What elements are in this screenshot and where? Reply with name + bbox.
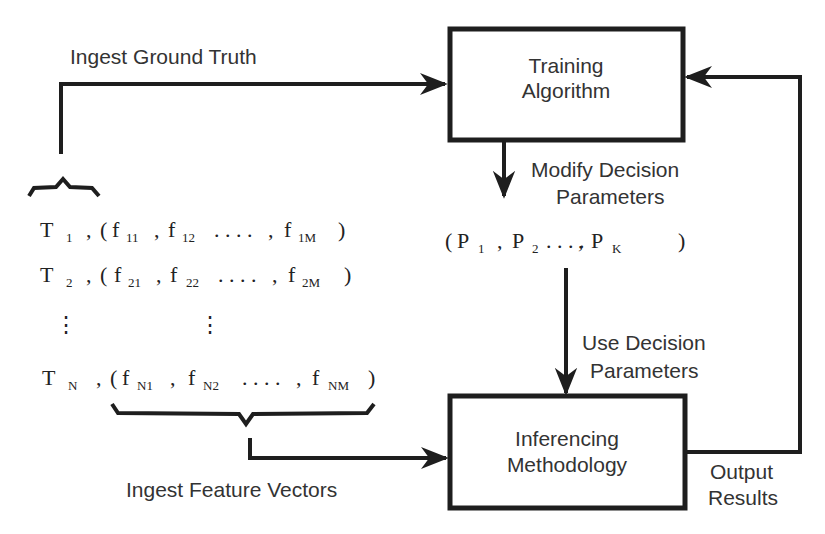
row-T: T bbox=[40, 262, 54, 287]
row-fM: f bbox=[288, 262, 296, 287]
row-ellipsis: . . . . bbox=[242, 365, 281, 390]
row-T: T bbox=[42, 365, 56, 390]
row-f2: f bbox=[168, 217, 176, 242]
row-comma: , bbox=[156, 262, 162, 287]
feature-vectors-arrow bbox=[250, 438, 446, 458]
output-label-line1: Output bbox=[710, 460, 773, 483]
row-comma: , bbox=[96, 365, 102, 390]
inferencing-methodology-node: Inferencing Methodology bbox=[450, 396, 685, 508]
params-open: ( bbox=[445, 228, 452, 253]
row-fM-sub: 1M bbox=[298, 230, 317, 245]
row-open: ( bbox=[110, 365, 117, 390]
param-pk-sub: K bbox=[612, 241, 622, 256]
row-T-sub: 1 bbox=[66, 230, 73, 245]
output-feedback-arrow bbox=[687, 77, 800, 452]
output-label-line2: Results bbox=[708, 486, 778, 509]
inferencing-label-line2: Methodology bbox=[507, 453, 628, 476]
use-label-line1: Use Decision bbox=[582, 331, 706, 354]
row-f1-sub: N1 bbox=[137, 378, 153, 393]
training-algorithm-node: Training Algorithm bbox=[450, 29, 683, 140]
row-open: ( bbox=[100, 262, 107, 287]
modify-parameters-edge: Modify Decision Parameters bbox=[504, 142, 679, 208]
row-fM-sub: NM bbox=[328, 378, 349, 393]
row-ellipsis: . . . . bbox=[218, 262, 257, 287]
row-T: T bbox=[40, 217, 54, 242]
training-label-line2: Algorithm bbox=[522, 79, 611, 102]
row-f2-sub: 12 bbox=[182, 230, 195, 245]
ml-pipeline-diagram: Ingest Ground Truth Training Algorithm M… bbox=[0, 0, 825, 534]
row-fM: f bbox=[284, 217, 292, 242]
data-row: T 1 , ( f 11 , f 12 . . . . , f 1M ) bbox=[40, 217, 345, 245]
data-row: T N , ( f N1 , f N2 . . . . , f NM ) bbox=[42, 365, 375, 393]
row-comma: , bbox=[170, 365, 176, 390]
param-p2-sub: 2 bbox=[532, 241, 539, 256]
training-data-rows: T 1 , ( f 11 , f 12 . . . . , f 1M ) T 2… bbox=[40, 217, 375, 393]
param-p1-sub: 1 bbox=[478, 241, 485, 256]
row-T-sub: N bbox=[68, 378, 78, 393]
vertical-dots-T: ⋮ bbox=[55, 312, 77, 337]
row-comma: , bbox=[154, 217, 160, 242]
params-close: ) bbox=[678, 228, 685, 253]
row-comma: , bbox=[272, 262, 278, 287]
param-p1: P bbox=[457, 228, 469, 253]
row-f1: f bbox=[114, 262, 122, 287]
feature-vectors-brace bbox=[112, 404, 374, 424]
vertical-dots-f: ⋮ bbox=[199, 312, 221, 337]
row-T-sub: 2 bbox=[66, 275, 73, 290]
row-f1: f bbox=[112, 217, 120, 242]
params-comma-2: , bbox=[578, 228, 584, 253]
row-close: ) bbox=[344, 262, 351, 287]
ground-truth-label: Ingest Ground Truth bbox=[70, 45, 257, 68]
row-comma: , bbox=[86, 262, 92, 287]
inferencing-methodology-box bbox=[450, 396, 685, 508]
params-comma-1: , bbox=[497, 228, 503, 253]
row-ellipsis: . . . . bbox=[214, 217, 253, 242]
ground-truth-arrow bbox=[61, 84, 445, 154]
row-f2: f bbox=[188, 365, 196, 390]
row-comma: , bbox=[296, 365, 302, 390]
use-parameters-edge: Use Decision Parameters bbox=[566, 268, 706, 393]
feature-vectors-label: Ingest Feature Vectors bbox=[126, 478, 337, 501]
row-f2: f bbox=[170, 262, 178, 287]
training-label-line1: Training bbox=[528, 54, 603, 77]
row-comma: , bbox=[86, 217, 92, 242]
modify-label-line1: Modify Decision bbox=[531, 158, 679, 181]
modify-label-line2: Parameters bbox=[556, 185, 665, 208]
row-fM: f bbox=[312, 365, 320, 390]
row-comma: , bbox=[268, 217, 274, 242]
param-p2: P bbox=[512, 228, 524, 253]
row-open: ( bbox=[100, 217, 107, 242]
inferencing-label-line1: Inferencing bbox=[515, 427, 619, 450]
row-fM-sub: 2M bbox=[302, 275, 321, 290]
row-close: ) bbox=[338, 217, 345, 242]
row-f1-sub: 11 bbox=[126, 230, 139, 245]
row-f1: f bbox=[122, 365, 130, 390]
output-feedback-edge: Output Results bbox=[687, 77, 800, 509]
parameter-vector: ( P 1 , P 2 . . . . , P K ) bbox=[445, 228, 685, 256]
row-f2-sub: N2 bbox=[203, 378, 219, 393]
row-close: ) bbox=[368, 365, 375, 390]
use-label-line2: Parameters bbox=[590, 359, 699, 382]
row-f1-sub: 21 bbox=[128, 275, 141, 290]
row-f2-sub: 22 bbox=[186, 275, 199, 290]
data-row: T 2 , ( f 21 , f 22 . . . . , f 2M ) bbox=[40, 262, 351, 290]
ground-truth-brace bbox=[29, 179, 99, 196]
feature-vectors-edge: Ingest Feature Vectors bbox=[126, 438, 446, 501]
ground-truth-edge: Ingest Ground Truth bbox=[61, 45, 445, 154]
param-pk: P bbox=[591, 228, 603, 253]
